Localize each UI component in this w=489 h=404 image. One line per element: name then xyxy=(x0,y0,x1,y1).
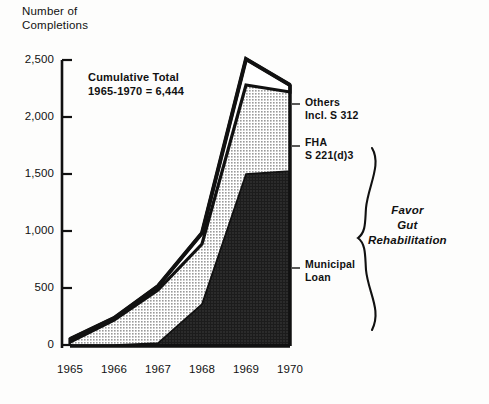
chart-plot xyxy=(0,0,489,404)
curly-brace-icon xyxy=(358,148,376,330)
chart-canvas: Number of Completions 2,500 2,000 1,500 … xyxy=(0,0,489,404)
label-leader-lines xyxy=(292,104,300,268)
y-axis xyxy=(62,60,72,348)
